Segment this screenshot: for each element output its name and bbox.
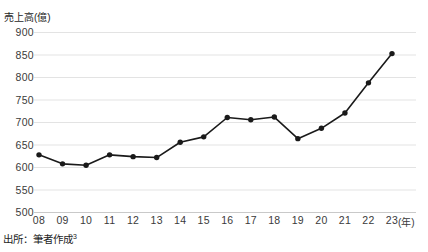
x-axis-unit-label: (年)	[398, 214, 415, 229]
source-footnote-marker: 3	[73, 233, 77, 240]
source-text: 出所：筆者作成	[3, 233, 73, 245]
x-tick-11: 11	[98, 214, 122, 226]
x-tick-17: 17	[239, 214, 263, 226]
x-tick-14: 14	[168, 214, 192, 226]
x-tick-15: 15	[192, 214, 216, 226]
x-tick-13: 13	[145, 214, 169, 226]
x-tick-21: 21	[333, 214, 357, 226]
x-tick-10: 10	[74, 214, 98, 226]
x-tick-22: 22	[356, 214, 380, 226]
x-tick-08: 08	[27, 214, 51, 226]
x-tick-16: 16	[215, 214, 239, 226]
source-note: 出所：筆者作成3	[3, 231, 77, 246]
x-tick-19: 19	[286, 214, 310, 226]
x-tick-09: 09	[51, 214, 75, 226]
x-tick-18: 18	[262, 214, 286, 226]
x-tick-12: 12	[121, 214, 145, 226]
x-axis-tick-labels: 08091011121314151617181920212223	[0, 0, 428, 252]
x-tick-20: 20	[309, 214, 333, 226]
